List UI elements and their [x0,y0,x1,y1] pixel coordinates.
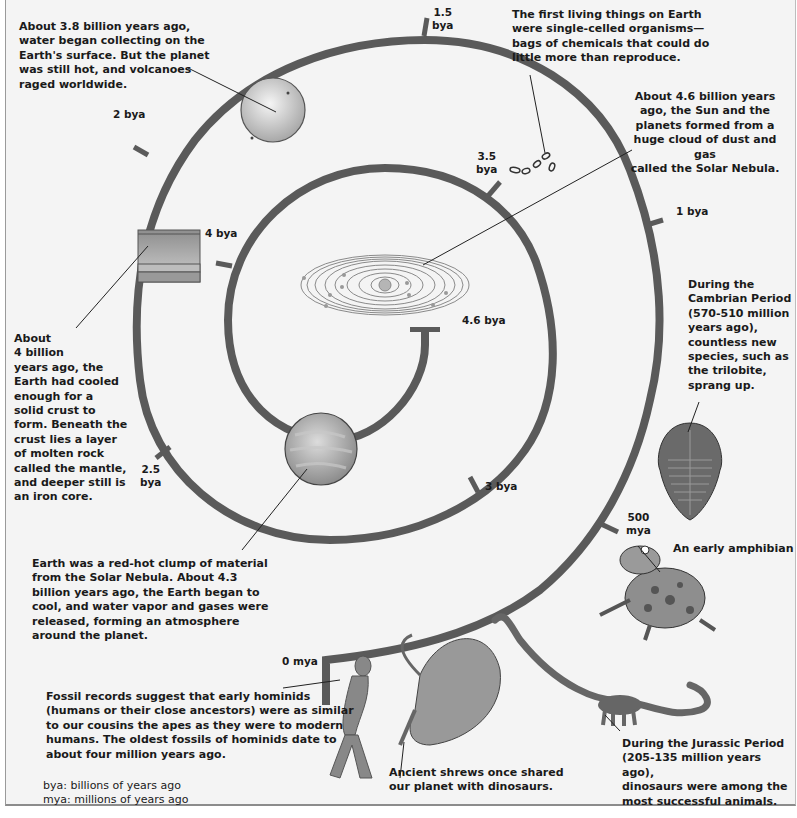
start-bar [410,327,440,332]
marker-4.6bya: 4.6 bya [462,314,506,327]
marker-2.5bya: 2.5 bya [140,463,161,489]
legend-mya: mya: millions of years ago [43,793,188,807]
early-amphibian-icon [600,546,715,640]
caption-cambrian: During the Cambrian Period (570-510 mill… [688,278,791,393]
trilobite-icon [658,423,721,520]
caption-shrews: Ancient shrews once shared our planet wi… [389,766,564,795]
caption-water: About 3.8 billion years ago, water began… [19,20,210,92]
caption-red-hot: Earth was a red-hot clump of material fr… [32,557,268,643]
caption-crust: About 4 billion years ago, the Earth had… [14,332,127,505]
marker-500mya: 500 mya [626,511,651,537]
marker-0mya: 0 mya [282,655,318,668]
caption-amphibian: An early amphibian [673,542,794,556]
marker-3.5bya: 3.5 bya [476,150,497,176]
caption-jurassic: During the Jurassic Period (205-135 mill… [622,737,797,809]
ancient-shrew-icon [400,635,500,745]
single-celled-organisms-icon [510,152,556,175]
marker-3bya: 3 bya [485,480,517,493]
caption-first-life: The first living things on Earth were si… [512,8,709,66]
sauropod-dinosaur-icon [495,617,707,713]
caption-hominids: Fossil records suggest that early homini… [46,690,354,762]
marker-1bya: 1 bya [676,205,708,218]
marker-1.5bya: 1.5 bya [432,6,453,32]
caption-solar-nebula: About 4.6 billion years ago, the Sun and… [625,90,785,176]
legend-bya: bya: billions of years ago [43,779,181,793]
marker-4bya: 4 bya [205,227,237,240]
sun-icon [379,279,391,291]
marker-2bya: 2 bya [113,108,145,121]
earth-crust-layers-icon [138,230,200,282]
